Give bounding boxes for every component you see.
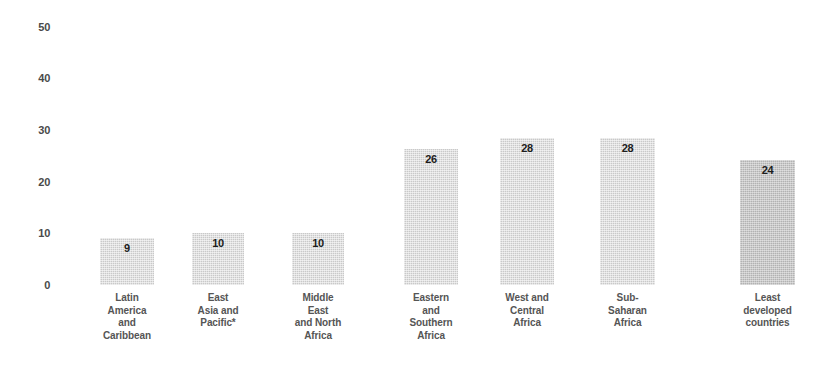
bar-value-label: 28 (500, 142, 554, 154)
bar-latin-america-and-caribbean: 9 (100, 238, 154, 285)
category-label-sub-saharan-africa: Sub- Saharan Africa (600, 292, 655, 330)
plot-area: 50 40 30 20 10 0 9 Latin America and Car… (0, 0, 824, 373)
bar-value-label: 9 (100, 242, 154, 254)
category-label-least-developed-countries: Least developed countries (740, 292, 795, 330)
bar-value-label: 28 (600, 142, 655, 154)
bar-sub-saharan-africa: 28 (600, 138, 655, 285)
bar-chart: 50 40 30 20 10 0 9 Latin America and Car… (0, 0, 824, 373)
bar-east-asia-and-pacific: 10 (192, 233, 244, 285)
bar-group-least-developed-countries: 24 Least developed countries (740, 0, 795, 373)
category-label-latin-america-and-caribbean: Latin America and Caribbean (100, 292, 154, 342)
bar-group-west-and-central-africa: 28 West and Central Africa (500, 0, 554, 373)
bars-layer: 9 Latin America and Caribbean 10 East As… (0, 0, 824, 373)
bar-value-label: 24 (740, 164, 795, 176)
bar-value-label: 10 (292, 237, 344, 249)
bar-value-label: 10 (192, 237, 244, 249)
bar-group-sub-saharan-africa: 28 Sub- Saharan Africa (600, 0, 655, 373)
bar-middle-east-and-north-africa: 10 (292, 233, 344, 285)
bar-group-eastern-and-southern-africa: 26 Eastern and Southern Africa (404, 0, 458, 373)
category-label-eastern-and-southern-africa: Eastern and Southern Africa (404, 292, 458, 342)
bar-west-and-central-africa: 28 (500, 138, 554, 285)
bar-eastern-and-southern-africa: 26 (404, 149, 458, 285)
bar-value-label: 26 (404, 153, 458, 165)
bar-group-middle-east-and-north-africa: 10 Middle East and North Africa (292, 0, 344, 373)
bar-least-developed-countries: 24 (740, 160, 795, 285)
category-label-middle-east-and-north-africa: Middle East and North Africa (292, 292, 344, 342)
category-label-west-and-central-africa: West and Central Africa (500, 292, 554, 330)
category-label-east-asia-and-pacific: East Asia and Pacific* (192, 292, 244, 330)
bar-group-latin-america-and-caribbean: 9 Latin America and Caribbean (100, 0, 154, 373)
bar-group-east-asia-and-pacific: 10 East Asia and Pacific* (192, 0, 244, 373)
